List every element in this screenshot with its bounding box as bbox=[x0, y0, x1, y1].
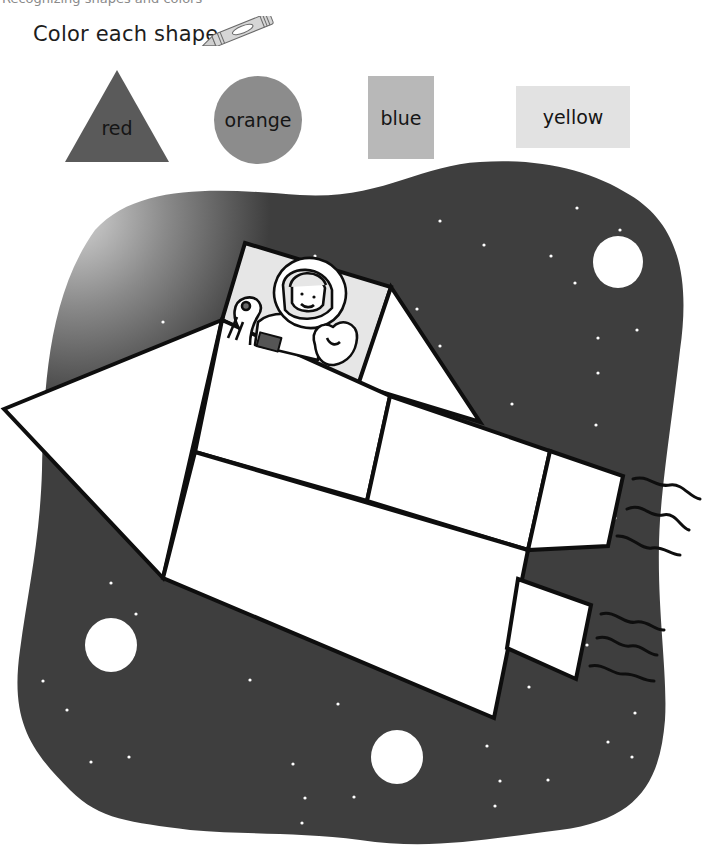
planet-bottom bbox=[371, 730, 423, 784]
planet-left bbox=[85, 618, 137, 672]
planet-top-right bbox=[593, 236, 643, 288]
space-scene bbox=[0, 0, 706, 850]
